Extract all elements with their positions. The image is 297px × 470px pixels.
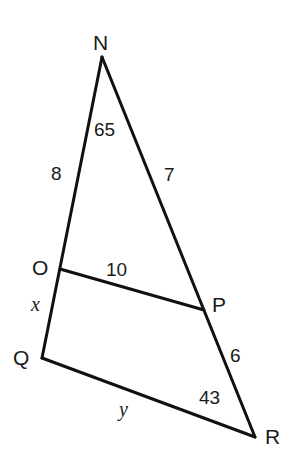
side-pr-label: 6 <box>230 345 241 366</box>
segment-qr <box>42 358 255 437</box>
side-op-label: 10 <box>106 259 127 280</box>
vertex-label-o: O <box>32 256 48 279</box>
triangle-diagram: N O P Q R 65 8 7 10 x 6 43 y <box>0 0 297 470</box>
vertex-label-n: N <box>93 31 108 54</box>
vertex-label-r: R <box>265 425 280 448</box>
vertex-label-p: P <box>212 293 226 316</box>
vertex-label-q: Q <box>13 346 29 369</box>
side-np-label: 7 <box>164 164 175 185</box>
segment-nr <box>102 57 255 437</box>
vertex-labels: N O P Q R <box>13 31 280 448</box>
segment-op <box>60 269 204 310</box>
side-no-label: 8 <box>51 163 62 184</box>
side-qr-label: y <box>117 398 128 421</box>
side-oq-label: x <box>30 293 40 315</box>
segment-nq <box>42 57 102 358</box>
angle-r-label: 43 <box>199 387 220 408</box>
angle-n-label: 65 <box>94 119 115 140</box>
segments <box>42 57 255 437</box>
